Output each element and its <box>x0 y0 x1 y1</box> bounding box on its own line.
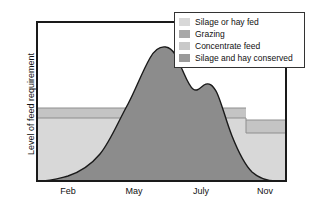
legend-label-silage-and-hay-conserved: Silage and hay conserved <box>195 54 293 63</box>
feed-requirement-chart: Level of feed requirement Feb May July N… <box>0 0 317 218</box>
legend-swatch-grazing <box>179 30 190 38</box>
x-tick-label-nov: Nov <box>257 186 273 196</box>
x-tick-label-may: May <box>125 186 142 196</box>
legend-swatch-silage-or-hay-fed <box>179 18 190 26</box>
legend-swatch-silage-and-hay-conserved <box>179 54 190 62</box>
legend-item-silage-and-hay-conserved: Silage and hay conserved <box>179 52 300 64</box>
legend-label-concentrate-feed: Concentrate feed <box>195 42 260 51</box>
legend-label-grazing: Grazing <box>195 30 225 39</box>
x-tick-label-feb: Feb <box>60 186 76 196</box>
x-tick-label-july: July <box>193 186 209 196</box>
legend-label-silage-or-hay-fed: Silage or hay fed <box>195 18 259 27</box>
y-axis-label: Level of feed requirement <box>26 24 36 184</box>
legend-item-concentrate-feed: Concentrate feed <box>179 40 300 52</box>
legend-swatch-concentrate-feed <box>179 42 190 50</box>
chart-legend: Silage or hay fed Grazing Concentrate fe… <box>174 12 305 68</box>
legend-item-grazing: Grazing <box>179 28 300 40</box>
legend-item-silage-or-hay-fed: Silage or hay fed <box>179 16 300 28</box>
